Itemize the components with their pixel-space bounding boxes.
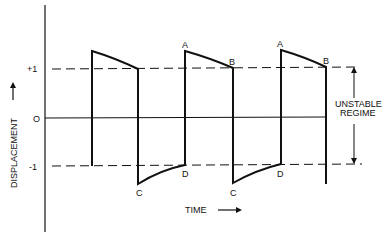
diagram: +1 O -1 DISPLACEMENT A B A B C D C D TIM… bbox=[0, 0, 391, 238]
plus-one-line bbox=[52, 67, 358, 69]
label-D2: D bbox=[277, 169, 284, 179]
waveform-diagram: +1 O -1 DISPLACEMENT A B A B C D C D TIM… bbox=[0, 0, 391, 238]
label-B2: B bbox=[323, 56, 329, 66]
regime-arrowhead-down-icon bbox=[351, 158, 357, 164]
label-D1: D bbox=[182, 169, 189, 179]
label-C1: C bbox=[136, 188, 143, 198]
label-C2: C bbox=[230, 188, 237, 198]
regime-label-line2: REGIME bbox=[340, 108, 376, 118]
x-arrowhead-icon bbox=[236, 207, 242, 213]
tick-plus-one: +1 bbox=[27, 64, 37, 74]
y-arrowhead-icon bbox=[10, 82, 16, 88]
label-B1: B bbox=[229, 57, 235, 67]
label-A1: A bbox=[182, 40, 188, 50]
regime-arrowhead-up-icon bbox=[351, 67, 357, 73]
tick-zero: O bbox=[33, 114, 40, 124]
y-axis-label: DISPLACEMENT bbox=[9, 117, 19, 188]
tick-minus-one: -1 bbox=[29, 162, 37, 172]
label-A2: A bbox=[277, 39, 283, 49]
minus-one-line bbox=[52, 164, 362, 166]
x-axis-label: TIME bbox=[185, 205, 207, 215]
